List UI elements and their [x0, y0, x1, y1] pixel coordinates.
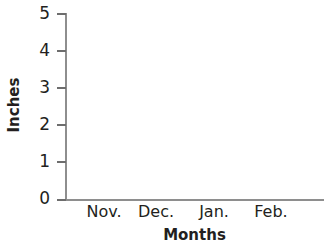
y-axis-label-0: 0 [28, 190, 50, 207]
y-axis-label-0-wrap: 0 [28, 190, 50, 207]
y-axis-label-1: 1 [28, 153, 50, 170]
plot-area [67, 13, 324, 199]
y-axis-tick-2 [57, 124, 66, 126]
y-axis-tick-0 [57, 199, 66, 201]
y-axis-label-5-wrap: 5 [28, 5, 50, 22]
y-axis-label-4-wrap: 4 [28, 42, 50, 59]
y-axis-label-1-wrap: 1 [28, 153, 50, 170]
x-axis-title: Months [65, 227, 324, 244]
blank-bar-chart: 5 4 3 2 1 0 Inches Nov. Dec. Jan. Feb. M… [0, 0, 328, 252]
y-axis-label-3: 3 [28, 79, 50, 96]
y-axis-tick-4 [57, 50, 66, 52]
x-axis-label-dec: Dec. [133, 203, 179, 221]
x-axis-label-jan: Jan. [191, 203, 237, 221]
y-axis-title: Inches [6, 65, 22, 145]
y-axis-tick-3 [57, 87, 66, 89]
y-axis-label-2-wrap: 2 [28, 116, 50, 133]
y-axis-label-5: 5 [28, 5, 50, 22]
y-axis-tick-5 [57, 13, 66, 15]
y-axis-label-3-wrap: 3 [28, 79, 50, 96]
x-axis-label-feb: Feb. [248, 203, 294, 221]
y-axis-tick-1 [57, 161, 66, 163]
x-axis-label-nov: Nov. [81, 203, 127, 221]
y-axis-label-4: 4 [28, 42, 50, 59]
chart-screenshot: 5 4 3 2 1 0 Inches Nov. Dec. Jan. Feb. M… [0, 0, 328, 252]
y-axis-label-2: 2 [28, 116, 50, 133]
x-axis-line [65, 199, 324, 201]
